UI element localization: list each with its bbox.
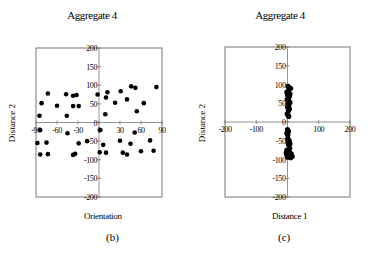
data-point bbox=[287, 146, 292, 151]
data-point bbox=[284, 150, 289, 155]
data-point bbox=[285, 136, 290, 141]
y-tick-label: 0 bbox=[282, 118, 286, 127]
x-tick-label: -100 bbox=[250, 125, 263, 134]
y-tick-label: 150 bbox=[275, 62, 286, 71]
y-tick-label: 100 bbox=[275, 81, 286, 90]
x-tick-label: -200 bbox=[218, 125, 231, 134]
y-tick-label: -100 bbox=[272, 156, 285, 165]
data-point bbox=[286, 114, 291, 119]
y-tick-label: 200 bbox=[275, 43, 286, 52]
scatter-plot-c: 200150100500-50-100-150-200-200-10010020… bbox=[0, 0, 368, 267]
y-tick-label: -50 bbox=[276, 137, 286, 146]
x-tick-label: 100 bbox=[313, 125, 324, 134]
y-tick-label: 50 bbox=[278, 99, 286, 108]
y-tick-label: -200 bbox=[272, 193, 285, 202]
y-tick-label: -150 bbox=[272, 174, 285, 183]
x-tick-label: 200 bbox=[345, 125, 356, 134]
